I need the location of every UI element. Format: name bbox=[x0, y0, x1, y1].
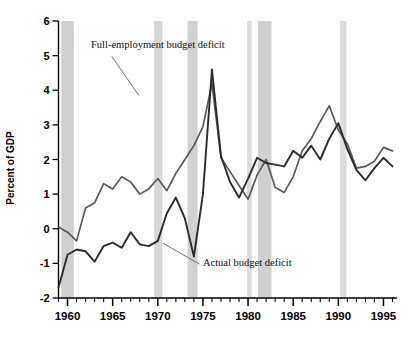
x-tick-label: 1960 bbox=[55, 310, 81, 322]
y-tick-label: 4 bbox=[43, 84, 50, 96]
recession-band bbox=[154, 21, 162, 298]
recession-band bbox=[188, 21, 198, 298]
y-tick-label: 3 bbox=[43, 119, 49, 131]
x-tick-label: 1985 bbox=[280, 310, 306, 322]
y-axis-title-text: Percent of GDP bbox=[5, 131, 16, 205]
y-tick-label: -1 bbox=[40, 257, 50, 269]
x-axis-ticks: 19601965197019751980198519901995 bbox=[55, 298, 397, 322]
y-tick-label: 1 bbox=[43, 188, 49, 200]
x-tick-label: 1995 bbox=[371, 310, 397, 322]
annotation-leader-line bbox=[112, 56, 139, 95]
x-tick-label: 1980 bbox=[235, 310, 261, 322]
y-tick-label: -2 bbox=[40, 292, 50, 304]
y-axis-ticks: -2-10123456 bbox=[40, 15, 59, 304]
x-tick-label: 1970 bbox=[145, 310, 171, 322]
annotation-label: Actual budget deficit bbox=[203, 257, 292, 268]
budget-deficit-chart: -2-10123456 1960196519701975198019851990… bbox=[0, 0, 412, 337]
x-tick-label: 1965 bbox=[100, 310, 126, 322]
annotation-label: Full-employment budget deficit bbox=[91, 39, 225, 50]
recession-band bbox=[340, 21, 346, 298]
y-tick-label: 5 bbox=[43, 50, 49, 62]
x-tick-label: 1990 bbox=[326, 310, 352, 322]
y-tick-label: 0 bbox=[43, 223, 49, 235]
chart-canvas: -2-10123456 1960196519701975198019851990… bbox=[0, 0, 412, 337]
x-tick-label: 1975 bbox=[190, 310, 216, 322]
y-tick-label: 6 bbox=[43, 15, 49, 27]
y-tick-label: 2 bbox=[43, 154, 49, 166]
y-axis-title: Percent of GDP bbox=[5, 131, 16, 205]
